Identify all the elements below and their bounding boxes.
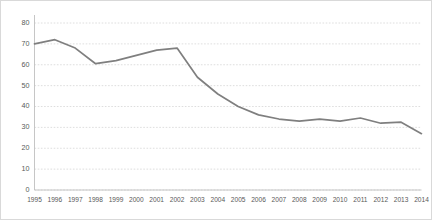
x-tick-label: 1997 — [68, 196, 83, 203]
x-tick-label: 2001 — [149, 196, 164, 203]
x-tick-label: 2014 — [414, 196, 429, 203]
x-tick-label: 1996 — [48, 196, 63, 203]
x-tick-label: 2008 — [292, 196, 307, 203]
y-tick-label: 30 — [22, 122, 30, 131]
data-series — [35, 40, 422, 134]
x-axis-tick-labels: 1995199619971998199920002001200220032004… — [27, 196, 429, 203]
x-tick-label: 2009 — [312, 196, 327, 203]
y-tick-label: 0 — [26, 185, 30, 194]
y-tick-label: 20 — [22, 143, 30, 152]
series-line-1 — [35, 40, 422, 134]
x-tick-label: 2006 — [251, 196, 266, 203]
x-tick-label: 2002 — [170, 196, 185, 203]
y-tick-label: 60 — [22, 60, 30, 69]
x-tick-label: 2005 — [231, 196, 246, 203]
x-tick-label: 1998 — [88, 196, 103, 203]
gridlines — [35, 23, 422, 190]
line-chart-plot: 01020304050607080 1995199619971998199920… — [1, 1, 432, 220]
y-tick-label: 70 — [22, 39, 30, 48]
y-tick-label: 50 — [22, 81, 30, 90]
x-tick-label: 2011 — [353, 196, 368, 203]
x-tick-label: 2007 — [272, 196, 287, 203]
y-tick-label: 80 — [22, 18, 30, 27]
x-tick-label: 2010 — [333, 196, 348, 203]
x-tick-label: 2003 — [190, 196, 205, 203]
axis-lines — [35, 15, 422, 190]
chart-container: 01020304050607080 1995199619971998199920… — [0, 0, 432, 220]
x-tick-label: 2012 — [373, 196, 388, 203]
y-axis-tick-labels: 01020304050607080 — [22, 18, 30, 194]
y-tick-label: 40 — [22, 101, 30, 110]
x-tick-label: 2004 — [210, 196, 225, 203]
x-tick-label: 2000 — [129, 196, 144, 203]
x-tick-label: 1999 — [109, 196, 124, 203]
y-tick-label: 10 — [22, 164, 30, 173]
x-tick-label: 1995 — [27, 196, 42, 203]
x-tick-label: 2013 — [394, 196, 409, 203]
